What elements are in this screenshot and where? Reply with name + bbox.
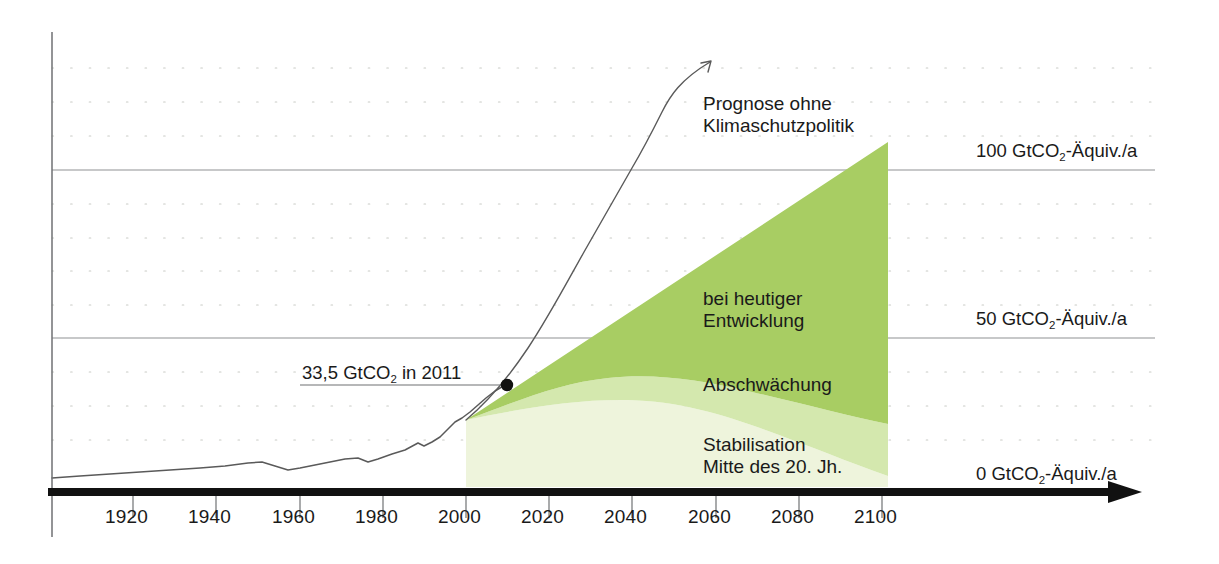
x-axis-tick-1980: 1980	[355, 506, 398, 528]
annotation-prognosis-line1: Prognose ohne	[703, 93, 832, 114]
x-axis-tick-2100: 2100	[854, 506, 897, 528]
annotation-band-low: StabilisationMitte des 20. Jh.	[703, 434, 842, 478]
annotation-band-mid: Abschwächung	[703, 374, 832, 396]
x-axis-tick-1920: 1920	[105, 506, 148, 528]
x-axis-tick-2000: 2000	[438, 506, 481, 528]
x-axis-tick-2060: 2060	[688, 506, 731, 528]
y-axis-label-0: 0 GtCO2-Äquiv./a	[976, 463, 1117, 484]
emissions-scenario-chart: 100 GtCO2-Äquiv./a 50 GtCO2-Äquiv./a 0 G…	[0, 0, 1219, 564]
annotation-prognosis: Prognose ohneKlimaschutzpolitik	[703, 93, 854, 138]
x-axis-arrowhead-icon	[1108, 481, 1142, 503]
annotation-band-high-line1: bei heutiger	[703, 288, 802, 309]
annotation-band-high: bei heutigerEntwicklung	[703, 288, 804, 332]
annotation-band-low-line1: Stabilisation	[703, 434, 805, 455]
annotation-datapoint-2011: 33,5 GtCO2 in 2011	[302, 362, 461, 383]
annotation-band-high-line2: Entwicklung	[703, 310, 804, 331]
y-axis-label-50: 50 GtCO2-Äquiv./a	[976, 308, 1127, 329]
x-axis-tick-2080: 2080	[771, 506, 814, 528]
x-axis-tick-2020: 2020	[521, 506, 564, 528]
x-axis-tick-1940: 1940	[188, 506, 231, 528]
x-axis-tick-1960: 1960	[272, 506, 315, 528]
annotation-prognosis-line2: Klimaschutzpolitik	[703, 115, 854, 136]
x-axis-tick-2040: 2040	[604, 506, 647, 528]
historical-emissions-line	[52, 385, 505, 478]
y-axis-label-100: 100 GtCO2-Äquiv./a	[976, 140, 1137, 161]
data-point-marker-2011	[501, 379, 513, 391]
x-axis-ticks	[133, 496, 882, 518]
annotation-band-low-line2: Mitte des 20. Jh.	[703, 456, 842, 477]
